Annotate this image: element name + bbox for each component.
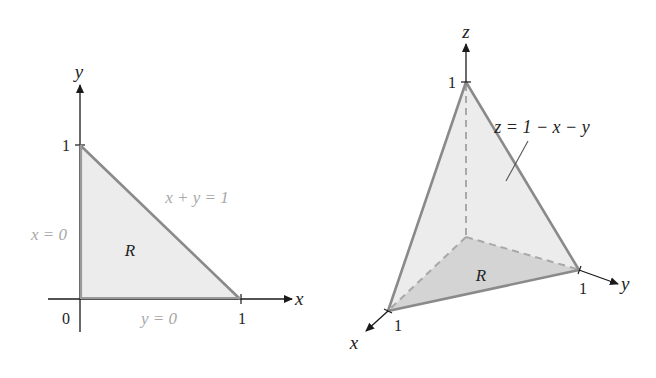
y-tick-label-3d: 1 xyxy=(579,280,587,297)
x-axis-3d xyxy=(366,311,388,331)
figure-canvas: y x 0 1 1 x + y = 1 x = 0 y = 0 R z y xyxy=(0,0,656,378)
left-edge-label: x = 0 xyxy=(30,225,68,244)
region-r-label-3d: R xyxy=(475,266,487,285)
z-axis-label: z xyxy=(461,21,470,42)
hypotenuse-label: x + y = 1 xyxy=(164,188,229,207)
y-axis-label: y xyxy=(73,61,84,82)
y-tick-label: 1 xyxy=(62,137,70,154)
x-tick-label-3d: 1 xyxy=(394,317,402,334)
y-axis-label-3d: y xyxy=(619,273,630,294)
x-axis-label-3d: x xyxy=(349,332,359,353)
origin-label: 0 xyxy=(62,310,70,327)
region-r-label: R xyxy=(124,241,136,260)
bottom-edge-label: y = 0 xyxy=(139,309,178,328)
x-tick-label: 1 xyxy=(238,310,246,327)
right-figure: z y x 1 1 1 z = 1 − x − y R xyxy=(349,21,630,353)
z-tick-label: 1 xyxy=(448,74,456,91)
x-axis-label: x xyxy=(294,288,304,309)
surface-label: z = 1 − x − y xyxy=(493,117,589,137)
left-figure: y x 0 1 1 x + y = 1 x = 0 y = 0 R xyxy=(30,61,304,332)
